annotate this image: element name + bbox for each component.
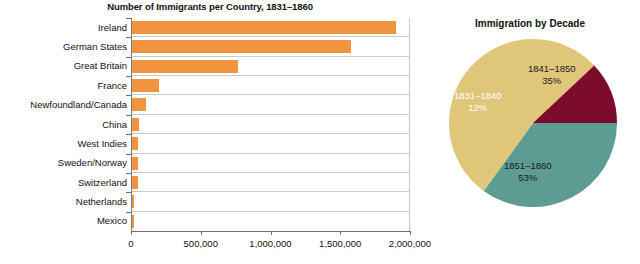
y-axis-tick — [126, 173, 131, 174]
bar-category-label: Netherlands — [3, 196, 131, 207]
pie-slice-percent: 53% — [504, 172, 552, 184]
x-axis-tick — [201, 231, 202, 235]
bar-row — [132, 154, 409, 173]
bar-row — [132, 57, 409, 76]
y-axis-tick — [126, 37, 131, 38]
bar-category-label: Switzerland — [3, 177, 131, 188]
y-axis-tick — [126, 95, 131, 96]
x-axis-tick-label: 500,000 — [184, 238, 218, 249]
bar-category-label: German States — [3, 41, 131, 52]
bar-row — [132, 212, 409, 231]
bar-row — [132, 115, 409, 134]
x-axis-tick-label: 1,500,000 — [319, 238, 361, 249]
bar-chart-category-axis: IrelandGerman StatesGreat BritainFranceN… — [0, 18, 131, 231]
y-axis-tick — [126, 212, 131, 213]
x-axis-tick — [271, 231, 272, 235]
pie-slice-label-text: 1841–1850 — [528, 63, 576, 74]
bar-chart-plot-area — [131, 18, 410, 231]
pie-slice-label-text: 1831–1840 — [454, 90, 502, 101]
pie-chart-title: Immigration by Decade — [420, 18, 640, 29]
pie-slice-label-1841-1850: 1841–1850 35% — [528, 63, 576, 87]
bar — [132, 118, 139, 131]
y-axis-tick — [126, 192, 131, 193]
pie-slice-percent: 12% — [454, 102, 502, 114]
y-axis-tick — [126, 115, 131, 116]
bar-row — [132, 173, 409, 192]
bar-category-label: Mexico — [3, 215, 131, 226]
x-axis-tick — [131, 231, 132, 235]
pie-slice-label-text: 1851–1860 — [504, 160, 552, 171]
x-axis-tick-label: 1,000,000 — [249, 238, 291, 249]
y-axis-tick — [126, 57, 131, 58]
bar — [132, 98, 146, 111]
bar-row — [132, 18, 409, 37]
bar — [132, 195, 134, 208]
y-axis-tick — [126, 18, 131, 19]
y-axis-tick — [126, 134, 131, 135]
bar-row — [132, 76, 409, 95]
bar-category-label: Newfoundland/Canada — [3, 99, 131, 110]
bar-chart-title: Number of Immigrants per Country, 1831–1… — [0, 1, 420, 12]
bar-row — [132, 192, 409, 211]
x-axis-tick — [340, 231, 341, 235]
bar-row — [132, 37, 409, 56]
bar — [132, 40, 351, 53]
bar — [132, 21, 396, 34]
bar-category-label: China — [3, 119, 131, 130]
bar — [132, 215, 134, 228]
bar-chart-panel: Number of Immigrants per Country, 1831–1… — [0, 0, 420, 264]
bar-category-label: Sweden/Norway — [3, 157, 131, 168]
bar — [132, 79, 159, 92]
bar — [132, 137, 138, 150]
bar-row — [132, 95, 409, 114]
pie-slice-label-1851-1860: 1851–1860 53% — [504, 160, 552, 184]
x-axis-tick — [410, 231, 411, 235]
bar — [132, 157, 138, 170]
pie-slice-percent: 35% — [528, 75, 576, 87]
bar — [132, 60, 238, 73]
bar-category-label: France — [3, 80, 131, 91]
bar-category-label: Ireland — [3, 22, 131, 33]
y-axis-tick — [126, 154, 131, 155]
bar-category-label: West Indies — [3, 138, 131, 149]
pie-slice-label-1831-1840: 1831–1840 12% — [454, 90, 502, 114]
y-axis-tick — [126, 76, 131, 77]
bar-category-label: Great Britain — [3, 60, 131, 71]
x-axis-tick-label: 0 — [128, 238, 133, 249]
bar-row — [132, 134, 409, 153]
pie-chart-panel: Immigration by Decade 1841–1850 35% 1831… — [420, 0, 640, 264]
bar — [132, 176, 138, 189]
